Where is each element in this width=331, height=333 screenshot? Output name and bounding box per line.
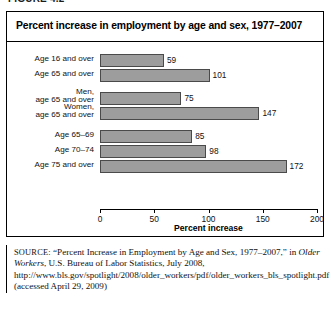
x-axis-tick [209,209,210,213]
bar-value-label: 85 [195,131,204,141]
bar-category-label: Age 75 and over [7,160,94,169]
bar [100,54,164,67]
bar [100,145,206,158]
bar-group: Age 16 and over59Age 65 and over101 [7,54,323,83]
bar-row: Age 75 and over172 [7,160,323,174]
bar-track: 98 [100,145,317,159]
bar-row: Age 65–6985 [7,130,323,144]
bar-value-label: 59 [167,55,176,65]
bar-category-label: Age 70–74 [7,145,94,154]
bar-track: 147 [100,107,317,121]
source-text-part1: “Percent Increase in Employment by Age a… [51,247,299,257]
bar-row: Age 16 and over59 [7,54,323,68]
x-axis: 050100150200 [100,209,317,210]
bar-category-label: Age 65–69 [7,130,94,139]
bar [100,69,210,82]
bar-group: Age 65–6985Age 70–7498Age 75 and over172 [7,130,323,174]
bar-chart-plot: Age 16 and over59Age 65 and over101Men,a… [7,44,323,238]
x-axis-tick [100,209,101,213]
source-note: SOURCE: “Percent Increase in Employment … [6,245,324,293]
source-label: SOURCE: [14,248,51,257]
x-axis-tick [154,209,155,213]
bar [100,160,287,173]
bar-value-label: 75 [184,93,193,103]
bar-track: 101 [100,69,317,83]
bar-value-label: 98 [209,146,218,156]
clipped-figure-caption-artifact: FIGURE 4.2 [0,0,331,11]
bar-row: Age 65 and over101 [7,69,323,83]
clipped-caption-text: FIGURE 4.2 [8,0,64,4]
bar-row: Age 70–7498 [7,145,323,159]
bar-groups: Age 16 and over59Age 65 and over101Men,a… [7,54,323,175]
x-axis-tick [317,209,318,213]
bar-value-label: 147 [262,108,276,118]
bar-category-label: Age 16 and over [7,54,94,63]
bar-value-label: 172 [290,161,304,171]
title-divider [7,41,323,42]
bar-value-label: 101 [213,70,227,80]
page-title: Percent increase in employment by age an… [16,20,315,31]
bar-group: Men,age 65 and over75Women,age 65 and ov… [7,92,323,121]
bar-row: Women,age 65 and over147 [7,107,323,121]
bar [100,130,192,143]
bar-track: 59 [100,54,317,68]
x-axis-title: Percent increase [100,223,317,233]
bar-category-label: Women,age 65 and over [7,103,94,120]
bar-track: 85 [100,130,317,144]
source-text-part2: , U.S. Bureau of Labor Statistics, July … [14,258,329,291]
bar-category-label: Age 65 and over [7,69,94,78]
figure-box: Percent increase in employment by age an… [6,11,324,237]
bar [100,107,259,120]
bar [100,92,181,105]
x-axis-tick [263,209,264,213]
bar-track: 75 [100,92,317,106]
bar-track: 172 [100,160,317,174]
